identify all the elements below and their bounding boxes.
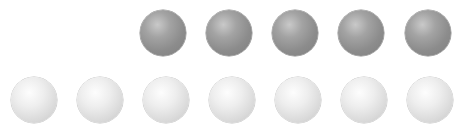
dark-sphere [206,10,252,56]
light-sphere [143,77,189,123]
light-sphere [77,77,123,123]
light-sphere [407,77,453,123]
light-sphere [11,77,57,123]
dark-sphere [272,10,318,56]
dark-sphere [405,10,451,56]
dark-sphere [338,10,384,56]
light-sphere [341,77,387,123]
light-sphere [209,77,255,123]
dark-sphere [140,10,186,56]
light-sphere [275,77,321,123]
